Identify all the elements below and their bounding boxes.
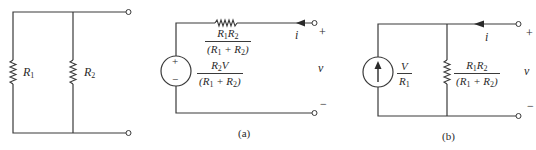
r2-label: R2: [84, 66, 95, 80]
shunt-resistor: [444, 60, 450, 84]
source-minus-sign: −: [172, 74, 178, 85]
voltage-label-b: v: [524, 65, 529, 77]
series-resistor: [215, 20, 237, 26]
plus-terminal-b: +: [526, 27, 533, 39]
resistor-r1: [10, 60, 16, 84]
shunt-resistor-value: R1R2 (R1 + R2): [454, 59, 500, 89]
caption-b: (b): [442, 130, 455, 142]
terminal-bottom-a: [312, 111, 317, 116]
current-label-b: i: [485, 31, 488, 43]
terminal-top-a: [312, 21, 317, 26]
terminal-bottom: [126, 131, 131, 136]
plus-terminal-a: +: [319, 26, 326, 38]
current-label-a: i: [295, 29, 298, 41]
norton-current-value: V R1: [397, 60, 412, 89]
resistor-r2: [70, 60, 76, 84]
terminal-top-b: [516, 22, 521, 27]
caption-a: (a): [238, 127, 250, 139]
voltage-label-a: v: [318, 62, 323, 74]
thevenin-voltage-value: R2V (R1 + R2): [197, 59, 243, 89]
current-arrow-a: [296, 20, 305, 27]
series-resistor-value: R1R2 (R1 + R2): [205, 27, 251, 57]
terminal-top: [126, 10, 131, 15]
r1-label: R1: [23, 66, 34, 80]
minus-terminal-a: −: [320, 98, 327, 110]
current-arrow-b: [474, 21, 484, 28]
minus-terminal-b: −: [527, 100, 534, 112]
terminal-bottom-b: [516, 114, 521, 119]
source-plus-sign: +: [172, 56, 178, 67]
